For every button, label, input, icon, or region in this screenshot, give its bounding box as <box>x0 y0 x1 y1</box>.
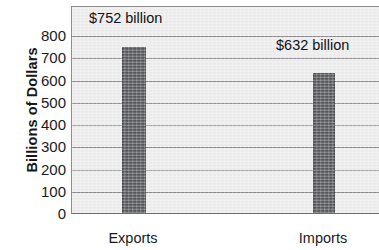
bar-chart: Billions of Dollars 80070060050040030020… <box>0 0 379 250</box>
y-axis-tick-label: 500 <box>24 95 66 110</box>
x-axis-label-imports: Imports <box>263 231 379 246</box>
y-axis-tick-label: 300 <box>24 139 66 154</box>
y-axis-tick-label: 100 <box>24 184 66 199</box>
y-axis-tick-label: 700 <box>24 50 66 65</box>
y-axis-tick-labels: 8007006005004003002001000 <box>24 0 66 250</box>
bar-value-label: $632 billion <box>276 38 349 53</box>
y-axis-tick-label: 400 <box>24 117 66 132</box>
bar-value-label: $752 billion <box>89 11 162 26</box>
y-axis-tick-label: 600 <box>24 73 66 88</box>
y-axis-tick-label: 800 <box>24 28 66 43</box>
bar-imports <box>313 73 335 214</box>
y-axis-tick-label: 200 <box>24 162 66 177</box>
gridline <box>72 58 379 59</box>
x-axis-label-exports: Exports <box>73 231 193 246</box>
y-axis-tick-label: 0 <box>24 206 66 221</box>
bar-exports <box>122 47 146 214</box>
